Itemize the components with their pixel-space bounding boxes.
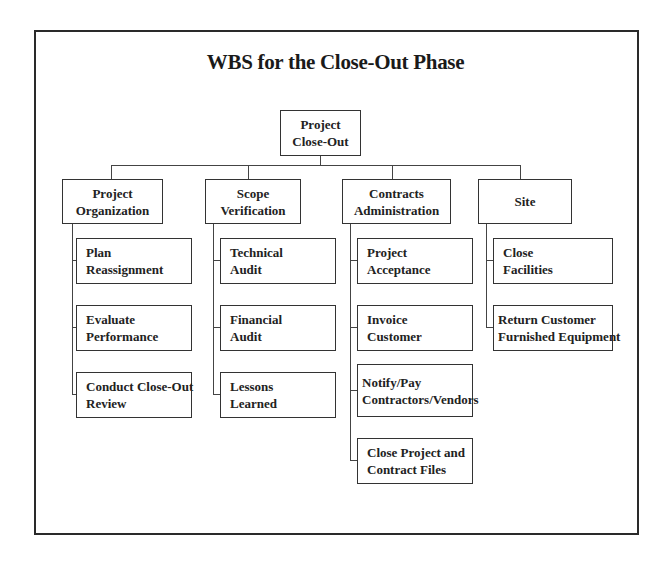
node-label-line1: Technical bbox=[230, 244, 283, 261]
node-label-line1: Contracts bbox=[369, 185, 424, 202]
node-invoice-customer: Invoice Customer bbox=[357, 305, 473, 351]
node-label-line2: Facilities bbox=[503, 261, 553, 278]
node-technical-audit: Technical Audit bbox=[220, 238, 336, 284]
node-label-line1: Notify/Pay bbox=[362, 374, 421, 391]
node-label-line2: Verification bbox=[220, 202, 285, 219]
connector-level2-bus bbox=[111, 165, 521, 166]
node-label-line2: Contract Files bbox=[367, 461, 446, 478]
connector-to-site bbox=[520, 165, 521, 179]
connector-to-project-organization bbox=[111, 165, 112, 179]
connector-project-organization-spine bbox=[72, 224, 73, 395]
node-label-line2: Administration bbox=[354, 202, 439, 219]
node-label-line1: Evaluate bbox=[86, 311, 135, 328]
connector-to-contracts-administration bbox=[392, 165, 393, 179]
node-evaluate-performance: Evaluate Performance bbox=[76, 305, 192, 351]
node-financial-audit: Financial Audit bbox=[220, 305, 336, 351]
node-label-line1: Close Project and bbox=[367, 444, 465, 461]
node-label-line1: Site bbox=[515, 193, 536, 210]
node-label-line2: Acceptance bbox=[367, 261, 431, 278]
node-label-line1: Project bbox=[300, 116, 340, 133]
connector-root-down bbox=[320, 156, 321, 165]
node-label-line1: Conduct Close-Out bbox=[86, 378, 193, 395]
node-site: Site bbox=[478, 179, 572, 224]
connector-site-spine bbox=[486, 224, 487, 328]
node-conduct-close-out-review: Conduct Close-Out Review bbox=[76, 372, 192, 418]
node-label-line1: Close bbox=[503, 244, 533, 261]
node-label-line2: Review bbox=[86, 395, 126, 412]
node-label-line2: Audit bbox=[230, 261, 262, 278]
connector-scope-verification-spine bbox=[213, 224, 214, 395]
node-label-line2: Audit bbox=[230, 328, 262, 345]
node-label-line1: Project bbox=[367, 244, 407, 261]
node-label-line2: Learned bbox=[230, 395, 277, 412]
node-contracts-administration: Contracts Administration bbox=[342, 179, 451, 224]
node-project-acceptance: Project Acceptance bbox=[357, 238, 473, 284]
node-close-facilities: Close Facilities bbox=[493, 238, 613, 284]
node-label-line2: Customer bbox=[367, 328, 422, 345]
node-label-line1: Plan bbox=[86, 244, 111, 261]
node-return-customer-furnished-equipment: Return Customer Furnished Equipment bbox=[493, 305, 613, 351]
node-label-line2: Organization bbox=[76, 202, 150, 219]
node-label-line2: Performance bbox=[86, 328, 158, 345]
node-label-line1: Scope bbox=[237, 185, 270, 202]
node-plan-reassignment: Plan Reassignment bbox=[76, 238, 192, 284]
diagram-title: WBS for the Close-Out Phase bbox=[0, 50, 671, 75]
node-label-line1: Financial bbox=[230, 311, 282, 328]
node-label-line1: Return Customer bbox=[498, 311, 596, 328]
node-scope-verification: Scope Verification bbox=[205, 179, 301, 224]
node-close-project-contract-files: Close Project and Contract Files bbox=[357, 438, 473, 484]
node-label-line1: Project bbox=[92, 185, 132, 202]
node-label-line2: Contractors/Vendors bbox=[362, 391, 479, 408]
node-label-line1: Lessons bbox=[230, 378, 273, 395]
node-label-line2: Furnished Equipment bbox=[498, 328, 620, 345]
node-label-line2: Reassignment bbox=[86, 261, 163, 278]
connector-to-scope-verification bbox=[248, 165, 249, 179]
node-label-line2: Close-Out bbox=[292, 133, 348, 150]
node-project-organization: Project Organization bbox=[62, 179, 163, 224]
node-project-close-out: Project Close-Out bbox=[280, 110, 361, 156]
node-notify-pay-contractors: Notify/Pay Contractors/Vendors bbox=[357, 364, 473, 417]
node-label-line1: Invoice bbox=[367, 311, 407, 328]
node-lessons-learned: Lessons Learned bbox=[220, 372, 336, 418]
